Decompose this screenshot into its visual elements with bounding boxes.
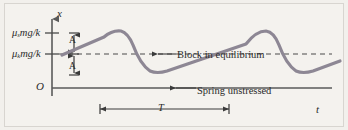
mu-k-expression: mg/k (20, 48, 40, 59)
y-tick-label-mu-s: μsmg/k (12, 28, 40, 39)
y-axis-label: x (57, 8, 62, 19)
equilibrium-annotation-label: Block in equilibrium (177, 50, 265, 61)
period-label: T (158, 103, 164, 114)
y-tick-label-mu-k: μkmg/k (12, 49, 41, 60)
figure-container: x t O μsmg/k μkmg/k A A T Block in equil… (0, 0, 348, 130)
amplitude-label-bottom: A (69, 62, 76, 72)
x-axis-label: t (316, 104, 319, 115)
plot-canvas (0, 0, 348, 130)
origin-label: O (36, 81, 44, 92)
amplitude-label-top: A (69, 36, 76, 46)
unstressed-annotation-label: Spring unstressed (197, 86, 271, 97)
mu-s-expression: mg/k (20, 27, 40, 38)
